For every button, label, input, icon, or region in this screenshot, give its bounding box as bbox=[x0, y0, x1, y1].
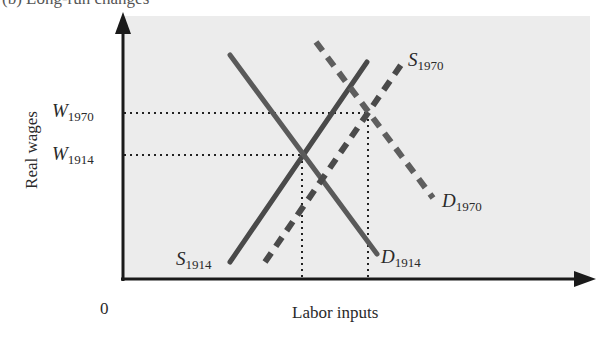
curve-letter: S bbox=[176, 248, 186, 269]
tick-subscript: 1970 bbox=[68, 109, 94, 124]
curve-subscript: 1970 bbox=[418, 58, 444, 73]
label-s1970: S1970 bbox=[408, 49, 444, 74]
x-axis-label: Labor inputs bbox=[292, 303, 378, 323]
label-d1914: D1914 bbox=[381, 246, 421, 271]
origin-label: 0 bbox=[100, 299, 109, 319]
curve-subscript: 1914 bbox=[395, 255, 421, 270]
curve-subscript: 1914 bbox=[186, 257, 212, 272]
tick-letter: W bbox=[52, 143, 68, 164]
label-s1914: S1914 bbox=[176, 248, 212, 273]
y-axis-label: Real wages bbox=[22, 111, 42, 189]
tick-subscript: 1914 bbox=[68, 152, 94, 167]
curve-letter: S bbox=[408, 49, 418, 70]
labor-market-diagram bbox=[0, 0, 611, 344]
curve-subscript: 1970 bbox=[456, 199, 482, 214]
plot-area bbox=[124, 16, 590, 278]
tick-w1970: W1970 bbox=[52, 100, 94, 125]
label-d1970: D1970 bbox=[442, 190, 482, 215]
tick-letter: W bbox=[52, 100, 68, 121]
curve-letter: D bbox=[442, 190, 456, 211]
tick-w1914: W1914 bbox=[52, 143, 94, 168]
curve-letter: D bbox=[381, 246, 395, 267]
